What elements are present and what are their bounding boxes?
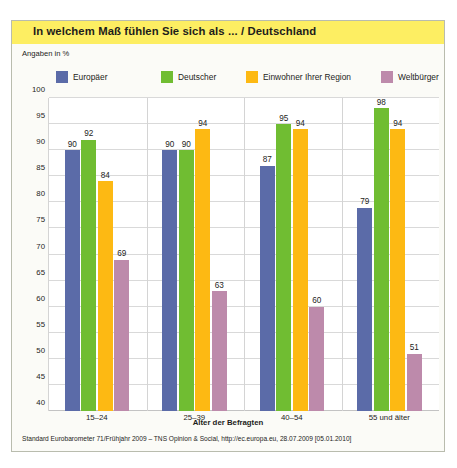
bar-value-label: 94 (195, 119, 210, 128)
bar-value-label: 94 (293, 119, 308, 128)
group-separator (147, 98, 148, 411)
legend-swatch-icon (246, 71, 258, 83)
y-axis-tick-label: 70 (36, 241, 45, 250)
bar: 63 (212, 291, 227, 411)
bar: 94 (195, 129, 210, 411)
y-axis-tick-label: 90 (36, 137, 45, 146)
bar-value-label: 79 (357, 197, 372, 206)
bar-value-label: 69 (114, 249, 129, 258)
bar: 60 (309, 307, 324, 411)
page-title: In welchem Maß fühlen Sie sich als ... /… (33, 25, 316, 37)
x-axis-tick-label: 40–54 (281, 413, 303, 422)
bar: 90 (162, 150, 177, 411)
y-axis-tick-label: 95 (36, 111, 45, 120)
bar: 92 (81, 140, 96, 411)
legend-label: Einwohner Ihrer Region (263, 72, 351, 82)
bar: 94 (390, 129, 405, 411)
plot-canvas: 1009590858075706560555045409092846990909… (48, 98, 439, 411)
x-axis-title: Alter der Befragten (193, 418, 264, 427)
legend-swatch-icon (161, 71, 173, 83)
legend-item-4: Weltbürger (381, 69, 439, 85)
y-axis-tick-label: 80 (36, 189, 45, 198)
group-separator (244, 98, 245, 411)
y-axis-tick-label: 85 (36, 163, 45, 172)
plot-area: 1009590858075706560555045409092846990909… (48, 98, 438, 411)
x-axis-tick-label: 55 und älter (369, 413, 410, 422)
bar-value-label: 84 (98, 171, 113, 180)
bar-value-label: 98 (374, 98, 389, 107)
y-axis-tick-label: 100 (32, 85, 45, 94)
bar: 94 (293, 129, 308, 411)
bar-value-label: 90 (162, 140, 177, 149)
unit-label: Angaben in % (22, 49, 69, 58)
bar: 84 (98, 181, 113, 411)
source-note: Standard Eurobarometer 71/Frühjahr 2009 … (22, 435, 351, 442)
bar-value-label: 90 (179, 140, 194, 149)
y-axis-tick-label: 40 (36, 398, 45, 407)
y-axis-tick-label: 65 (36, 267, 45, 276)
legend-label: Weltbürger (398, 72, 439, 82)
bar-value-label: 90 (65, 140, 80, 149)
y-axis-tick-label: 60 (36, 293, 45, 302)
bar: 69 (114, 260, 129, 411)
bar-value-label: 63 (212, 281, 227, 290)
chart-legend: EuropäerDeutscherEinwohner Ihrer RegionW… (56, 69, 440, 85)
group-separator (342, 98, 343, 411)
legend-label: Europäer (73, 72, 107, 82)
bar-value-label: 60 (309, 296, 324, 305)
y-axis-tick-label: 75 (36, 215, 45, 224)
y-axis-tick-label: 50 (36, 345, 45, 354)
bar-value-label: 94 (390, 119, 405, 128)
bar: 95 (276, 124, 291, 411)
bar-value-label: 87 (260, 155, 275, 164)
bar-value-label: 95 (276, 114, 291, 123)
bar: 90 (65, 150, 80, 411)
bar: 90 (179, 150, 194, 411)
chart-figure: In welchem Maß fühlen Sie sich als ... /… (11, 20, 445, 452)
bar: 51 (407, 354, 422, 411)
legend-item-3: Einwohner Ihrer Region (246, 69, 351, 85)
legend-swatch-icon (56, 71, 68, 83)
legend-swatch-icon (381, 71, 393, 83)
title-band: In welchem Maß fühlen Sie sich als ... /… (12, 21, 444, 44)
y-axis-tick-label: 45 (36, 371, 45, 380)
x-axis-tick-label: 15–24 (86, 413, 108, 422)
legend-label: Deutscher (178, 72, 216, 82)
bar: 79 (357, 208, 372, 411)
y-axis-tick-label: 55 (36, 319, 45, 328)
bar: 87 (260, 166, 275, 411)
legend-item-1: Europäer (56, 69, 107, 85)
legend-item-2: Deutscher (161, 69, 216, 85)
bar-value-label: 51 (407, 343, 422, 352)
bar: 98 (374, 108, 389, 411)
bar-value-label: 92 (81, 129, 96, 138)
